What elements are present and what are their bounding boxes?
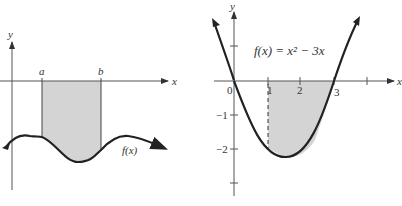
x-tick-label-1: 1 [267,84,273,96]
right-chart: y x f(x) = x² − 3x 0 1 2 3 −1 −2 [212,0,402,196]
left-y-label: y [7,28,13,40]
left-curve-label: f(x) [122,144,138,157]
x-tick-label-0: 0 [227,84,233,96]
left-shaded-region [42,81,101,162]
right-y-label: y [229,0,235,12]
left-b-label: b [98,65,104,77]
right-x-label: x [396,75,402,87]
x-tick-label-2: 2 [297,84,303,96]
left-chart: y x a b f(x) [0,28,177,190]
y-tick-label-m1: −1 [216,109,228,121]
left-x-label: x [171,75,177,87]
left-curve-arrow-start [2,143,10,150]
left-a-label: a [39,65,45,77]
equation-label: f(x) = x² − 3x [254,43,325,58]
y-tick-label-m2: −2 [216,143,228,155]
x-tick-label-3: 3 [334,86,340,98]
right-parabola-arrow-left [212,18,220,27]
